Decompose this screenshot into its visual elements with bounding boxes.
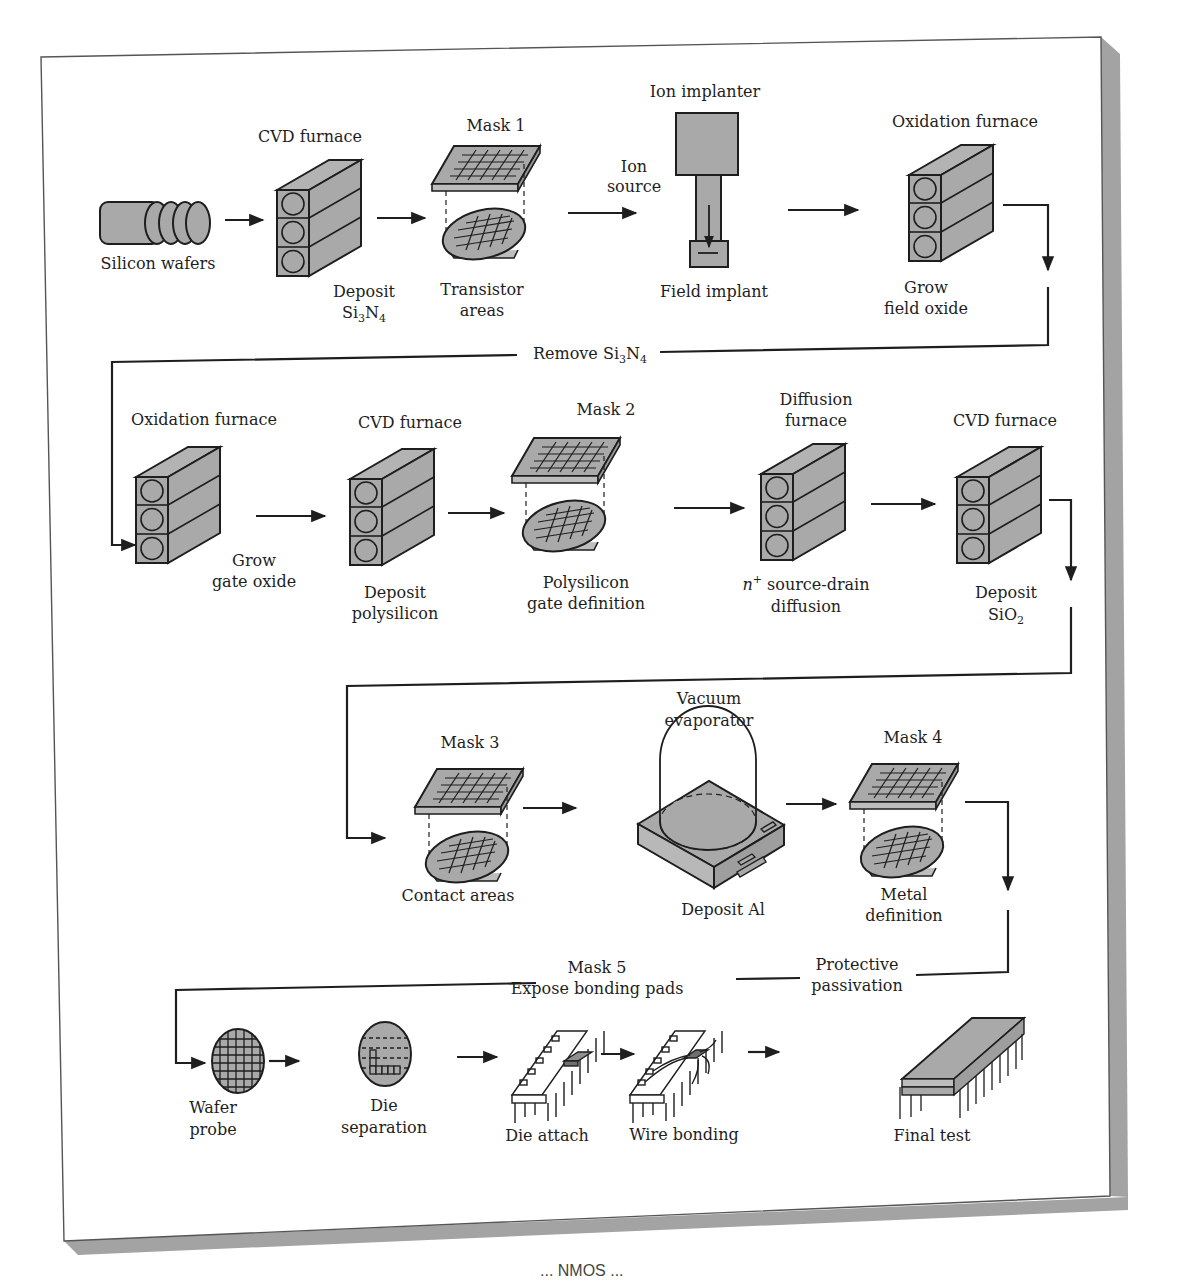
- ion-source-label-line1: Ion: [621, 157, 647, 176]
- deposit-polysilicon-line1: Deposit: [364, 583, 427, 602]
- grow-field-oxide-line2: field oxide: [884, 299, 968, 318]
- mask-5-label: Mask 5: [567, 958, 626, 977]
- wire-bonding-label: Wire bonding: [629, 1125, 739, 1144]
- polysilicon-gate-line2: gate definition: [527, 594, 645, 613]
- grow-gate-oxide-line2: gate oxide: [212, 572, 296, 591]
- deposit-al-label: Deposit Al: [681, 900, 765, 919]
- cvd-furnace-3-title: CVD furnace: [953, 411, 1057, 430]
- mask-1-title: Mask 1: [466, 116, 525, 135]
- die-separation-line1: Die: [370, 1096, 397, 1115]
- figure-caption-fragment: ... NMOS ...: [540, 1262, 624, 1282]
- mask-1-step-line1: Transistor: [440, 280, 524, 299]
- deposit-polysilicon-line2: polysilicon: [352, 604, 439, 623]
- metal-definition-line1: Metal: [881, 885, 928, 904]
- expose-bonding-pads-label: Expose bonding pads: [511, 979, 684, 998]
- die-attach-label: Die attach: [505, 1126, 589, 1145]
- diffusion-furnace-title-line2: furnace: [785, 411, 847, 430]
- n-plus-source-drain-label: n+ source-drain: [742, 573, 869, 594]
- mask-2-title: Mask 2: [576, 400, 635, 419]
- mask-3-title: Mask 3: [440, 733, 499, 752]
- diffusion-step-line2: diffusion: [771, 597, 841, 616]
- silicon-wafers-icon: [100, 202, 210, 244]
- process-flow-diagram: Silicon wafers CVD furnace Deposit Si3N4…: [0, 0, 1179, 1282]
- die-separation-line2: separation: [341, 1118, 427, 1137]
- final-test-label: Final test: [894, 1126, 971, 1145]
- field-implant-label: Field implant: [660, 282, 769, 301]
- grow-gate-oxide-line1: Grow: [232, 551, 276, 570]
- passivation-label: passivation: [811, 976, 902, 995]
- contact-areas-label: Contact areas: [401, 886, 514, 905]
- diffusion-furnace-title-line1: Diffusion: [780, 390, 853, 409]
- wafer-probe-line1: Wafer: [189, 1098, 237, 1117]
- remove-si3n4-label: Remove Si3N4: [533, 344, 647, 366]
- mask-4-title: Mask 4: [883, 728, 942, 747]
- wafer-probe-line2: probe: [189, 1120, 236, 1139]
- cvd-furnace-1-title: CVD furnace: [258, 127, 362, 146]
- silicon-wafers-label: Silicon wafers: [101, 254, 216, 273]
- metal-definition-line2: definition: [865, 906, 942, 925]
- grow-field-oxide-line1: Grow: [904, 278, 948, 297]
- die-separation-icon: [359, 1022, 411, 1086]
- mask-1-step-line2: areas: [460, 301, 504, 320]
- protective-label: Protective: [816, 955, 899, 974]
- cvd-furnace-2-title: CVD furnace: [358, 413, 462, 432]
- deposit-sio2-line1: Deposit: [975, 583, 1038, 602]
- ion-implanter-title: Ion implanter: [650, 82, 761, 101]
- polysilicon-gate-line1: Polysilicon: [543, 573, 629, 592]
- oxidation-furnace-1-title: Oxidation furnace: [892, 112, 1038, 131]
- ion-source-label-line2: source: [607, 177, 661, 196]
- cvd-step-line1: Deposit: [333, 282, 396, 301]
- oxidation-furnace-2-title: Oxidation furnace: [131, 410, 277, 429]
